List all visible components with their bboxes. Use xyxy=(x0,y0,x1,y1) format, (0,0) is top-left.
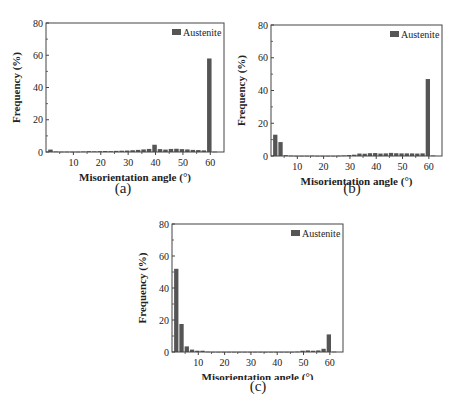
y-tick-label: 60 xyxy=(33,50,43,61)
y-tick-label: 40 xyxy=(159,283,169,294)
chart-b: 020406080102030405060Misorientation angl… xyxy=(225,0,457,200)
x-tick-label: 60 xyxy=(424,161,434,172)
plot-frame xyxy=(271,25,442,156)
y-tick-label: 20 xyxy=(159,315,169,326)
x-tick-label: 30 xyxy=(246,357,256,368)
bar xyxy=(273,135,277,156)
chart-panel-b: 020406080102030405060Misorientation angl… xyxy=(225,0,457,200)
bar xyxy=(152,145,156,152)
y-tick-label: 60 xyxy=(159,251,169,262)
y-tick-label: 60 xyxy=(258,52,268,63)
y-tick-label: 80 xyxy=(33,18,43,29)
x-tick-label: 20 xyxy=(96,157,106,168)
plot-frame xyxy=(172,224,343,352)
bar xyxy=(185,346,189,352)
x-tick-label: 40 xyxy=(371,161,381,172)
chart-panel-c: 020406080102030405060Misorientation angl… xyxy=(125,200,357,380)
legend-swatch xyxy=(390,31,399,37)
bar xyxy=(426,79,430,156)
y-tick-label: 40 xyxy=(33,82,43,93)
x-tick-label: 50 xyxy=(178,157,188,168)
caption-a: (a) xyxy=(103,180,143,197)
y-tick-label: 80 xyxy=(159,219,169,230)
y-axis-label: Frequency (%) xyxy=(10,52,23,123)
chart-a: 020406080102030405060Misorientation angl… xyxy=(0,0,230,200)
legend-swatch xyxy=(172,29,181,35)
x-tick-label: 40 xyxy=(151,157,161,168)
plot-frame xyxy=(46,23,224,152)
chart-c: 020406080102030405060Misorientation angl… xyxy=(125,200,357,380)
y-tick-label: 80 xyxy=(258,20,268,31)
x-tick-label: 50 xyxy=(398,161,408,172)
x-tick-label: 50 xyxy=(299,357,309,368)
x-tick-label: 10 xyxy=(68,157,78,168)
y-tick-label: 20 xyxy=(33,114,43,125)
y-axis-label: Frequency (%) xyxy=(136,252,149,323)
legend-swatch xyxy=(291,230,300,236)
x-tick-label: 40 xyxy=(272,357,282,368)
caption-c: (c) xyxy=(238,378,278,395)
y-tick-label: 0 xyxy=(263,151,268,162)
caption-b: (b) xyxy=(332,180,372,197)
x-tick-label: 20 xyxy=(319,161,329,172)
bar xyxy=(278,142,282,156)
bar xyxy=(174,269,178,352)
x-tick-label: 20 xyxy=(220,357,230,368)
bar xyxy=(207,58,211,152)
bar xyxy=(327,334,331,352)
legend-label: Austenite xyxy=(302,228,341,239)
y-tick-label: 20 xyxy=(258,118,268,129)
x-tick-label: 30 xyxy=(123,157,133,168)
chart-panel-a: 020406080102030405060Misorientation angl… xyxy=(0,0,230,200)
x-tick-label: 60 xyxy=(325,357,335,368)
x-tick-label: 60 xyxy=(205,157,215,168)
y-tick-label: 0 xyxy=(164,347,169,358)
y-tick-label: 0 xyxy=(38,147,43,158)
legend-label: Austenite xyxy=(401,29,440,40)
bar xyxy=(179,324,183,352)
legend-label: Austenite xyxy=(183,27,222,38)
y-axis-label: Frequency (%) xyxy=(235,55,248,126)
x-tick-label: 30 xyxy=(345,161,355,172)
y-tick-label: 40 xyxy=(258,85,268,96)
x-tick-label: 10 xyxy=(193,357,203,368)
x-tick-label: 10 xyxy=(292,161,302,172)
